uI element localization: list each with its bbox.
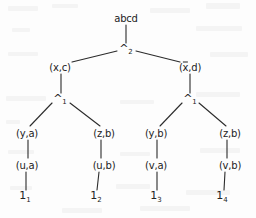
tree-node-label: 1 (90, 189, 97, 202)
tree-node-label: (u,a) (16, 160, 38, 171)
tree-node-subscript: 1 (62, 98, 66, 106)
tree-node-label: (y,b) (145, 128, 167, 139)
tree-node-opR: ^1 (183, 93, 197, 108)
tree-node-f1: 11 (19, 190, 30, 206)
tree-node-r1: (x,d) (179, 62, 201, 73)
tree-node-op2: ^2 (119, 43, 133, 58)
tree-node-label: (x,c) (49, 62, 70, 73)
tree-node-subscript: 4 (223, 196, 227, 204)
tree-node-label: 1 (19, 189, 26, 202)
tree-node-root: abcd (114, 13, 138, 24)
tree-edge-m4-to-f4 (224, 172, 225, 190)
overline-x: x (183, 62, 189, 73)
tree-node-subscript: 2 (97, 196, 101, 204)
tree-node-subscript: 1 (26, 196, 30, 204)
tree-node-m3: (v,a) (145, 160, 167, 171)
tree-node-subscript: 3 (157, 196, 161, 204)
tree-node-n1: (y,a) (16, 128, 38, 139)
tree-edge-op2-to-l1 (72, 51, 117, 62)
tree-edge-opR-to-n4 (199, 103, 226, 126)
tree-node-opL: ^1 (53, 93, 67, 108)
tree-edge-op2-to-r1 (136, 51, 180, 62)
tree-node-label: ^ (119, 42, 128, 55)
tree-diagram-canvas: abcd^2(x,c)(x,d)^1^1(y,a)(z,b)(y,b)(z,b)… (0, 0, 256, 218)
tree-node-label: (u,b) (93, 160, 116, 171)
tree-node-label: 1 (150, 189, 157, 202)
tree-edge-opL-to-n1 (30, 103, 52, 126)
tree-node-m2: (u,b) (93, 160, 116, 171)
tree-edge-m2-to-f2 (97, 172, 99, 190)
tree-node-label: (v,a) (145, 160, 167, 171)
tree-node-f4: 14 (216, 190, 227, 206)
tree-node-label: (z,b) (219, 128, 241, 139)
tree-edge-opR-to-n3 (160, 103, 182, 126)
tree-node-label: abcd (114, 13, 138, 24)
tree-node-n3: (y,b) (145, 128, 167, 139)
tree-node-label: (v,b) (219, 160, 241, 171)
tree-node-label: ^ (53, 92, 62, 105)
tree-node-f2: 12 (90, 190, 101, 206)
tree-node-label: 1 (216, 189, 223, 202)
tree-node-label: ^ (183, 92, 192, 105)
tree-node-m1: (u,a) (16, 160, 38, 171)
tree-node-n2: (z,b) (93, 128, 115, 139)
tree-node-m4: (v,b) (219, 160, 241, 171)
tree-node-f3: 13 (150, 190, 161, 206)
tree-node-label: (z,b) (93, 128, 115, 139)
tree-node-l1: (x,c) (49, 62, 70, 73)
tree-node-label: (y,a) (16, 128, 38, 139)
tree-node-n4: (z,b) (219, 128, 241, 139)
tree-node-subscript: 2 (128, 48, 132, 56)
tree-node-subscript: 1 (192, 98, 196, 106)
tree-edge-opL-to-n2 (70, 103, 100, 126)
tree-edges-layer (0, 0, 256, 218)
